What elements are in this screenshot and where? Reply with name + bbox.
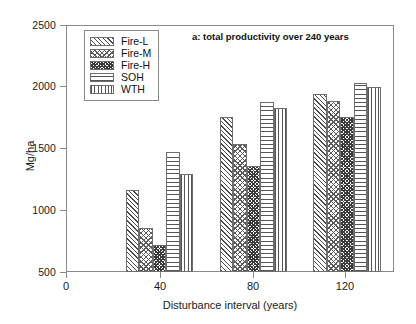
bar-wth-40 — [180, 174, 194, 272]
bar-fire-h-40 — [153, 245, 167, 272]
legend-swatch-wth-icon — [90, 85, 114, 94]
legend-swatch-fire-h-icon — [90, 61, 114, 70]
legend-item-soh[interactable]: SOH — [90, 72, 151, 84]
bar-wth-80 — [274, 108, 288, 272]
x-tick-label-80: 80 — [233, 280, 273, 292]
legend-item-fire-h[interactable]: Fire-H — [90, 60, 151, 72]
bar-fire-m-40 — [139, 228, 153, 272]
legend-label-fire-m: Fire-M — [121, 48, 151, 59]
y-tick-label-2000: 2000 — [16, 80, 56, 92]
x-tick-label-40: 40 — [140, 280, 180, 292]
y-axis-label: Mg/ha — [24, 116, 36, 196]
x-tick-label-120: 120 — [325, 280, 365, 292]
legend: Fire-L Fire-M Fire-H SOH WTH — [84, 30, 159, 101]
bar-wth-120 — [367, 87, 381, 272]
legend-item-fire-m[interactable]: Fire-M — [90, 48, 151, 60]
bar-fire-m-120 — [327, 101, 341, 272]
chart-container: 2500 2000 1500 1000 500 Mg/ha 0 40 80 12… — [0, 0, 416, 324]
bar-fire-l-120 — [313, 94, 327, 272]
legend-swatch-fire-l-icon — [90, 37, 114, 46]
legend-swatch-soh-icon — [90, 73, 114, 82]
x-tick-0 — [66, 272, 67, 278]
bar-fire-m-80 — [233, 144, 247, 272]
legend-label-wth: WTH — [121, 84, 145, 95]
bar-fire-l-80 — [220, 117, 234, 272]
bar-fire-h-120 — [340, 117, 354, 272]
legend-label-fire-l: Fire-L — [121, 36, 148, 47]
bar-soh-40 — [166, 152, 180, 272]
bar-fire-h-80 — [247, 166, 261, 272]
legend-swatch-fire-m-icon — [90, 49, 114, 58]
bar-fire-l-40 — [126, 190, 140, 272]
legend-label-soh: SOH — [121, 72, 144, 83]
y-tick-label-1000: 1000 — [16, 204, 56, 216]
y-tick-label-2500: 2500 — [16, 19, 56, 31]
x-tick-80 — [253, 272, 254, 278]
y-tick-label-500: 500 — [16, 266, 56, 278]
legend-item-fire-l[interactable]: Fire-L — [90, 36, 151, 48]
y-tick-label-1500: 1500 — [16, 142, 56, 154]
x-tick-40 — [160, 272, 161, 278]
x-axis-label: Disturbance interval (years) — [66, 299, 394, 311]
bar-soh-80 — [260, 102, 274, 272]
x-tick-label-0: 0 — [46, 280, 86, 292]
bar-soh-120 — [354, 83, 368, 272]
x-tick-120 — [345, 272, 346, 278]
legend-item-wth[interactable]: WTH — [90, 84, 151, 96]
legend-label-fire-h: Fire-H — [121, 60, 150, 71]
